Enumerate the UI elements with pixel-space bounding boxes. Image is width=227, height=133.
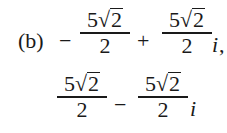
minus-sign: − [59, 30, 71, 52]
numerator: 5√2 [80, 8, 130, 31]
part-label: (b) [18, 30, 44, 52]
comma: , [219, 34, 225, 56]
numerator: 5√2 [138, 72, 188, 95]
fraction-2: 5√2 2 [162, 8, 212, 57]
fraction-4: 5√2 2 [138, 72, 188, 121]
denominator: 2 [138, 99, 188, 121]
fraction-1: 5√2 2 [80, 8, 130, 57]
denominator: 2 [162, 35, 212, 57]
fraction-3: 5√2 2 [57, 72, 107, 121]
imaginary-unit: i [190, 98, 196, 120]
numerator: 5√2 [57, 72, 107, 95]
numerator: 5√2 [162, 8, 212, 31]
denominator: 2 [57, 99, 107, 121]
denominator: 2 [80, 35, 130, 57]
minus-sign: − [114, 94, 126, 116]
plus-sign: + [137, 30, 149, 52]
imaginary-unit: i [212, 34, 218, 56]
